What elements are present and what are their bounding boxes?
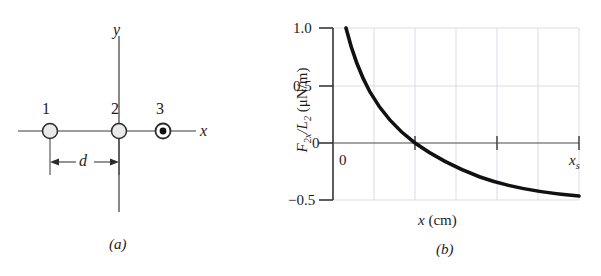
grid-vertical [333,28,579,200]
wire-1-symbol [43,124,58,139]
panel-b-caption: (b) [436,242,454,257]
figure-container: 1 2 3 x y d (a) F2x/L2 (μN/m) [0,0,601,276]
x-axis-title: x (cm) [418,213,457,228]
y-tick-label-2: 0.5 [293,79,312,94]
wire-1-label: 1 [42,101,50,117]
y-axis-title-wrap: F2x/L2 (μN/m) [288,22,318,198]
dimension-label-d: d [79,153,87,169]
x-end-label-sub: s [576,160,580,171]
panel-a-svg [0,0,290,276]
y-tick-label-4: −0.5 [288,193,315,208]
panel-a-caption: (a) [109,237,127,252]
wire-2-label: 2 [111,101,119,117]
x-end-label-xs: xs [569,153,580,171]
panel-a-y-axis-label: y [113,22,120,38]
y-axis-ticks [319,28,333,200]
x-axis-title-units: (cm) [428,212,456,228]
y-axis-title-sub-2: 2 [302,116,313,121]
panel-b-chart: F2x/L2 (μN/m) [290,0,601,276]
wire-3-current-dot [160,128,167,135]
wire-2-symbol [112,124,127,139]
x-end-label-main: x [569,152,576,168]
y-tick-label-3: 0 [312,136,320,151]
y-tick-label-1: 1.0 [293,21,312,36]
y-axis-title-f: F [294,143,310,152]
data-curve [346,28,579,196]
y-axis-title-sub-2x: 2x [302,134,313,144]
panel-a-diagram: 1 2 3 x y d (a) [0,0,290,276]
x-origin-label: 0 [339,153,347,168]
wire-3-label: 3 [156,101,164,117]
panel-b-svg [290,0,601,276]
y-axis-title-over-l: /L [294,121,310,134]
x-axis-title-var: x [418,212,425,228]
y-axis-title-units [294,112,310,116]
panel-a-x-axis-label: x [200,123,207,139]
